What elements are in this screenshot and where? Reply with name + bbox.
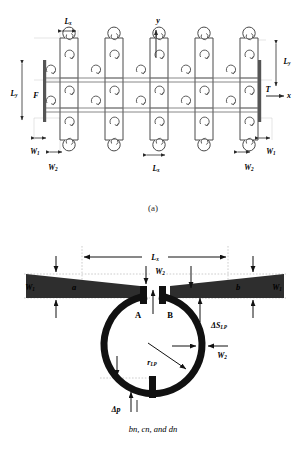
lattice-column (105, 27, 123, 151)
panel-b-unit-cell: A B a b Lx W2 (0, 230, 306, 455)
panel-b-drawing: A B a b Lx W2 (0, 230, 306, 455)
dim-label-lx: Lx (150, 253, 159, 262)
bottom-gap-tab (149, 376, 156, 398)
arm-label-b: b (236, 282, 240, 292)
right-tapered-arm (170, 274, 284, 298)
gap-label-b: B (167, 310, 173, 320)
dim-label-w2-side: W2 (217, 351, 227, 360)
lattice-column (60, 27, 78, 151)
dim-label-r-lp: rLP (147, 358, 157, 367)
y-axis-label: y (155, 16, 160, 25)
left-tapered-arm (26, 274, 140, 298)
lattice-column (195, 27, 213, 151)
right-boundary-bar (258, 60, 261, 122)
dim-label-lx-top: Lx (63, 17, 72, 26)
panel-b-note: bn, cn, and dn (129, 424, 177, 434)
dim-label-w2-right: W2 (244, 163, 254, 172)
guide-lines (24, 246, 286, 378)
panel-a-drawing: y x F T Lx Ly Ly (0, 0, 306, 203)
dim-label-w2-top: W2 (155, 267, 165, 276)
x-axis-label: x (286, 91, 291, 100)
dim-label-w2-left: W2 (48, 163, 58, 172)
left-boundary-bar (43, 60, 46, 122)
right-boundary-label: T (266, 85, 272, 94)
lattice-column (150, 27, 168, 151)
dim-label-w1-right: W1 (266, 147, 276, 156)
lattice-columns (60, 27, 258, 151)
gap-label-a: A (135, 310, 142, 320)
dim-label-delta-s-lp: ΔSLP (210, 321, 228, 330)
figure-root: y x F T Lx Ly Ly (0, 0, 306, 455)
gap-stem-left (140, 286, 147, 304)
lattice-column (240, 27, 258, 151)
dim-label-delta-p: Δp (110, 405, 120, 414)
dim-label-ly-right: Ly (283, 57, 292, 66)
dim-label-ly-left: Ly (10, 89, 19, 98)
left-boundary-label: F (32, 91, 39, 100)
panel-a-lattice: y x F T Lx Ly Ly (0, 0, 306, 230)
caption-a: (a) (0, 203, 306, 213)
dim-label-lx-bottom: Lx (151, 164, 160, 173)
gap-stem-right (159, 286, 166, 304)
dim-label-w1-left: W1 (30, 147, 40, 156)
